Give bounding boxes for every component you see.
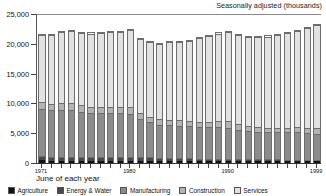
bar-segment <box>69 110 74 157</box>
bar-segment <box>275 35 280 127</box>
bar <box>38 34 45 163</box>
x-axis-tick-mark <box>188 164 189 168</box>
legend-label: Services <box>243 187 268 194</box>
x-axis-tick-mark <box>218 164 219 168</box>
bar-segment <box>147 42 152 117</box>
legend-item: Construction <box>179 187 224 194</box>
bar-segment <box>305 133 310 160</box>
y-axis-tick-label: 25,000 <box>6 10 29 19</box>
x-axis-tick-mark <box>267 164 268 168</box>
bar <box>156 43 163 163</box>
y-axis-tick-label: 10,000 <box>6 99 29 108</box>
bar-segment <box>108 32 113 106</box>
legend-label: Manufacturing <box>130 187 171 194</box>
bar-segment <box>305 28 310 127</box>
x-axis-tick-mark <box>139 164 140 168</box>
bar <box>127 29 134 163</box>
bar <box>166 41 173 163</box>
bar-segment <box>39 109 44 157</box>
bar <box>245 36 252 163</box>
bar-segment <box>167 42 172 120</box>
y-axis-tick-label: 5,000 <box>11 129 30 138</box>
bar-segment <box>265 37 270 128</box>
bar-segment <box>59 32 64 103</box>
bar <box>146 41 153 163</box>
bar-segment <box>187 126 192 158</box>
x-axis-tick-mark <box>110 164 111 168</box>
bar-segment <box>49 35 54 103</box>
x-axis-tick-label: 1990 <box>221 168 233 174</box>
bar-segment <box>49 110 54 157</box>
x-axis-tick-mark <box>169 164 170 168</box>
legend-item: Energy & Water <box>57 187 111 194</box>
bar-segment <box>255 37 260 127</box>
bar-segment <box>206 127 211 158</box>
bar <box>78 32 85 163</box>
x-axis-tick-mark <box>61 164 62 168</box>
bar <box>294 30 301 164</box>
bar-segment <box>108 113 113 157</box>
bar <box>97 32 104 163</box>
legend-item: Manufacturing <box>120 187 170 194</box>
legend-label: Energy & Water <box>67 187 112 194</box>
bar-segment <box>118 113 123 157</box>
bar <box>87 32 94 163</box>
bar-segment <box>138 119 143 157</box>
bar <box>117 31 124 163</box>
x-axis-tick-mark <box>247 164 248 168</box>
bar-segment <box>88 34 93 107</box>
chart-subtitle: Seasonally adjusted (thousands) <box>216 1 322 10</box>
bar-segment <box>206 36 211 122</box>
bar-segment <box>216 34 221 122</box>
x-axis-tick-mark <box>120 164 121 168</box>
bar-segment <box>226 32 231 122</box>
x-axis-tick-mark <box>277 164 278 168</box>
employment-stacked-bar-chart: Seasonally adjusted (thousands) 05,00010… <box>0 0 326 196</box>
bar-segment <box>285 132 290 159</box>
x-axis-tick-mark <box>51 164 52 168</box>
bar <box>176 41 183 163</box>
bar <box>186 40 193 163</box>
bar-segment <box>88 113 93 157</box>
bar-segment <box>314 25 319 128</box>
bar-segment <box>69 103 74 110</box>
bar <box>107 31 114 163</box>
bar-segment <box>138 39 143 113</box>
x-axis-tick-mark <box>149 164 150 168</box>
x-axis-tick-mark <box>179 164 180 168</box>
bar-segment <box>197 127 202 158</box>
x-axis-tick-mark <box>80 164 81 168</box>
bar <box>254 36 261 163</box>
y-axis: 05,00010,00015,00020,00025,000 <box>0 0 36 196</box>
bar <box>313 24 320 163</box>
chart-legend: AgricultureEnergy & WaterManufacturingCo… <box>8 187 268 194</box>
bar-segment <box>295 132 300 159</box>
x-axis-title: June of each year <box>36 174 100 183</box>
bar-segment <box>187 41 192 121</box>
bar-segment <box>157 125 162 158</box>
bar-segment <box>39 35 44 102</box>
bar-segment <box>79 33 84 105</box>
legend-swatch-icon <box>120 187 127 194</box>
bar <box>215 32 222 163</box>
y-axis-tick-label: 20,000 <box>6 39 29 48</box>
bar <box>264 35 271 163</box>
x-axis-tick-mark <box>208 164 209 168</box>
legend-item: Agriculture <box>8 187 48 194</box>
x-axis-tick-mark <box>159 164 160 168</box>
bar <box>235 34 242 163</box>
legend-item: Services <box>234 187 268 194</box>
plot-area <box>36 14 321 163</box>
bar-segment <box>157 44 162 120</box>
bar <box>225 31 232 163</box>
x-axis-tick-mark <box>257 164 258 168</box>
legend-swatch-icon <box>8 187 15 194</box>
bar-segment <box>128 30 133 108</box>
bar <box>58 31 65 163</box>
bar-segment <box>177 42 182 120</box>
x-axis-tick-label: 1999 <box>310 168 322 174</box>
bar-segment <box>246 131 251 159</box>
bar-segment <box>98 33 103 107</box>
bar-segment <box>69 31 74 103</box>
bar-segment <box>147 122 152 157</box>
